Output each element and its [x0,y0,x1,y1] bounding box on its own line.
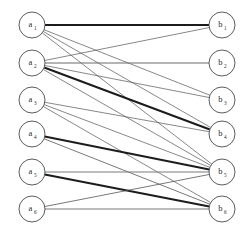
node-label-b6: b [218,203,222,213]
node-label-b5: b [218,166,222,176]
graph-edge-a2-b5 [43,69,210,165]
graph-edge-a2-b4 [44,68,210,130]
edge-layer [42,25,211,209]
graph-edge-a2-b3 [45,65,209,97]
node-subscript-a4: 4 [34,134,37,140]
node-subscript-b6: 6 [224,209,227,215]
graph-edge-a3-b5 [44,105,210,168]
node-subscript-a6: 6 [34,209,37,215]
graph-node-b3[interactable]: b3 [209,87,235,113]
node-subscript-b2: 2 [224,63,227,69]
node-subscript-b5: 5 [224,172,227,178]
node-label-a1: a [29,19,33,29]
node-label-a2: a [29,57,33,67]
node-subscript-a5: 5 [34,172,37,178]
graph-node-b6[interactable]: b6 [209,196,235,222]
node-subscript-a1: 1 [34,25,37,31]
node-label-a3: a [29,94,33,104]
node-subscript-b4: 4 [224,134,227,140]
graph-edge-a3-b4 [45,102,209,131]
graph-edge-a2-b1 [45,28,210,61]
graph-node-b1[interactable]: b1 [209,12,235,38]
node-subscript-a3: 3 [34,100,37,106]
graph-node-b2[interactable]: b2 [209,50,235,76]
graph-node-b5[interactable]: b5 [209,159,235,185]
graph-node-a4[interactable]: a4 [19,121,45,147]
graph-node-a1[interactable]: a1 [19,12,45,38]
graph-node-b4[interactable]: b4 [209,121,235,147]
graph-node-a5[interactable]: a5 [19,159,45,185]
graph-edge-a4-b5 [45,137,210,170]
node-label-b2: b [218,57,222,67]
graph-node-a3[interactable]: a3 [19,87,45,113]
node-subscript-b1: 1 [224,25,227,31]
graph-node-a6[interactable]: a6 [19,196,45,222]
graph-edge-a1-b4 [43,31,210,127]
node-label-b3: b [218,94,222,104]
graph-node-a2[interactable]: a2 [19,50,45,76]
node-subscript-a2: 2 [34,63,37,69]
bipartite-graph-figure: a1a2a3a4a5a6b1b2b3b4b5b6 [0,0,251,236]
node-label-a6: a [29,203,33,213]
node-label-b4: b [218,128,222,138]
graph-canvas: a1a2a3a4a5a6b1b2b3b4b5b6 [0,0,251,236]
node-label-a5: a [29,166,33,176]
node-label-b1: b [218,19,222,29]
node-label-a4: a [29,128,33,138]
node-subscript-b3: 3 [224,100,227,106]
